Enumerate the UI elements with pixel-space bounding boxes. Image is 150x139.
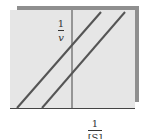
x-axis-label-denominator: [S] — [88, 131, 103, 139]
plot-shadow-right — [135, 6, 139, 102]
x-axis-label: 1 [S] — [86, 114, 104, 139]
plot-area — [0, 0, 150, 139]
x-axis-label-numerator: 1 — [92, 119, 98, 130]
y-axis-label-numerator: 1 — [58, 19, 64, 30]
plot-shadow-top — [17, 6, 139, 10]
y-axis-label-denominator: v — [58, 31, 64, 43]
y-axis-label: 1 v — [53, 14, 69, 43]
lineweaver-burk-figure: 1 v 1 [S] — [0, 0, 150, 139]
